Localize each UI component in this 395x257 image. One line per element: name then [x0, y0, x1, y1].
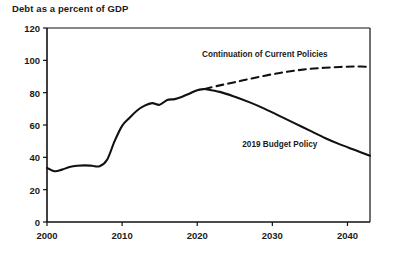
- x-axis-tick-label: 2010: [112, 230, 133, 241]
- y-axis-tick-label: 40: [8, 152, 40, 163]
- x-axis-tick-label: 2030: [262, 230, 283, 241]
- series-line-continuation-of-current-policies: [205, 66, 370, 88]
- y-axis-tick-label: 0: [8, 217, 40, 228]
- chart-plot-area: [0, 0, 395, 257]
- y-axis-tick-label: 80: [8, 87, 40, 98]
- y-axis-tick-label: 120: [8, 23, 40, 34]
- chart-page: Debt as a percent of GDP 020406080100120…: [0, 0, 395, 257]
- series-annotation-label: 2019 Budget Policy: [242, 140, 317, 149]
- y-axis-tick-label: 60: [8, 120, 40, 131]
- x-axis-tick-label: 2020: [187, 230, 208, 241]
- y-axis-tick-label: 20: [8, 184, 40, 195]
- x-axis-tick-label: 2040: [337, 230, 358, 241]
- y-axis-tick-label: 100: [8, 55, 40, 66]
- series-line-historical: [47, 89, 205, 171]
- series-annotation-label: Continuation of Current Policies: [202, 49, 328, 58]
- series-paths: [47, 66, 370, 171]
- x-axis-tick-label: 2000: [36, 230, 57, 241]
